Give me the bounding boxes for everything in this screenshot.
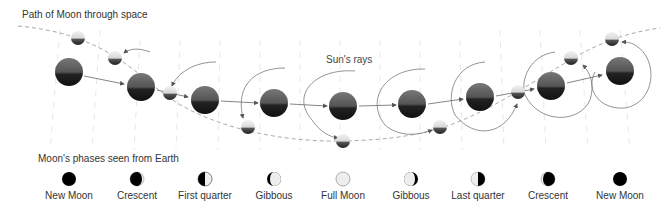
first-quarter-icon [197,171,213,187]
waning-gibbous-icon [403,171,419,187]
moon-6 [433,120,447,134]
last-quarter-icon [470,171,486,187]
moon-3 [163,86,177,100]
moon-2 [108,51,122,65]
waning-crescent-icon [540,171,556,187]
earth-4 [260,89,288,117]
earth-6 [398,90,426,118]
earth-positions [55,57,634,120]
earth-1 [55,58,83,86]
earth-2 [127,73,155,101]
new-moon-icon [612,171,628,187]
earth-8 [537,72,565,100]
moon-4 [241,120,255,134]
moon-5 [336,134,350,148]
moon-1 [71,31,85,45]
phases-title: Moon's phases seen from Earth [38,153,179,164]
moon-orbit-diagram [0,0,669,160]
earth-3 [191,86,219,114]
moon-9 [605,32,619,46]
earth-5 [329,92,357,120]
earth-7 [466,83,494,111]
full-moon-icon [335,171,351,187]
waxing-crescent-icon [129,171,145,187]
moon-7 [511,85,525,99]
new-moon-icon [61,171,77,187]
waxing-gibbous-icon [266,171,282,187]
moon-8 [564,51,578,65]
phase-new-moon-2: New Moon [575,171,665,201]
earth-9 [606,57,634,85]
